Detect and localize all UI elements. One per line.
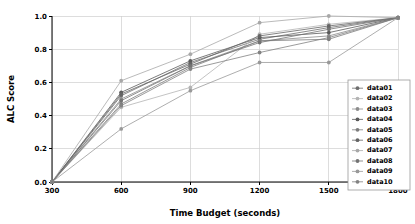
y-axis-title: ALC Score [6, 75, 16, 123]
legend-swatch-marker [356, 180, 360, 184]
series-marker [327, 24, 331, 28]
legend-swatch-marker [356, 138, 360, 142]
y-tick-label: 0.0 [35, 179, 48, 187]
series-marker [258, 61, 262, 65]
data-series [50, 16, 400, 184]
series-marker [258, 21, 262, 25]
x-tick-label: 300 [45, 187, 60, 195]
series-marker [327, 27, 331, 31]
legend-swatch-marker [356, 149, 360, 153]
y-tick-label: 0.6 [35, 79, 48, 87]
legend-item-label: data05 [367, 126, 393, 134]
legend-item-label: data08 [367, 157, 393, 165]
series-line [52, 18, 398, 182]
series-marker [119, 104, 123, 108]
legend-item-label: data10 [367, 178, 393, 186]
x-tick-label: 600 [114, 187, 129, 195]
series-marker [327, 31, 331, 35]
series-marker [396, 16, 400, 20]
data-series [50, 16, 400, 184]
x-tick-label: 900 [183, 187, 198, 195]
data-series [50, 14, 400, 184]
legend-swatch-marker [356, 159, 360, 163]
series-line [52, 18, 398, 182]
series-line [52, 18, 398, 182]
legend-swatch-marker [356, 118, 360, 122]
axis-lines [52, 16, 398, 182]
series-line [52, 18, 398, 182]
legend-swatch-marker [356, 107, 360, 111]
series-line [52, 18, 398, 182]
series-marker [327, 61, 331, 65]
legend-swatch-marker [356, 97, 360, 101]
x-axis-title: Time Budget (seconds) [170, 208, 281, 218]
legend-item-label: data02 [367, 94, 393, 102]
y-tick-label: 0.4 [35, 112, 48, 120]
series-marker [119, 79, 123, 83]
chart-legend[interactable]: data01data02data03data04data05data06data… [348, 80, 410, 190]
legend-swatch-marker [356, 128, 360, 132]
data-series [50, 16, 400, 184]
y-tick-label: 0.2 [35, 145, 48, 153]
series-marker [50, 180, 54, 184]
series-marker [189, 64, 193, 68]
series-marker [189, 59, 193, 63]
legend-item-label: data03 [367, 105, 393, 113]
series-marker [327, 36, 331, 40]
series-line [52, 18, 398, 182]
data-series [50, 16, 400, 184]
data-series [50, 16, 400, 184]
legend-item-label: data06 [367, 136, 393, 144]
series-line [52, 16, 398, 182]
data-series [50, 16, 400, 184]
x-tick-label: 1500 [319, 187, 339, 195]
data-series [50, 16, 400, 184]
y-tick-label: 1.0 [35, 13, 48, 21]
legend-swatch-marker [356, 170, 360, 174]
series-marker [258, 41, 262, 45]
series-marker [189, 52, 193, 56]
legend-swatch-marker [356, 86, 360, 90]
data-series [50, 16, 400, 184]
chart-figure: 0.00.20.40.60.81.0300600900120015001800 … [0, 0, 415, 224]
series-marker [258, 34, 262, 38]
legend-item-label: data09 [367, 167, 393, 175]
series-marker [327, 14, 331, 18]
legend-item-label: data04 [367, 115, 393, 123]
series-marker [119, 92, 123, 96]
series-line [52, 18, 398, 182]
series-line [52, 18, 398, 182]
series-marker [258, 51, 262, 55]
series-line [52, 18, 398, 182]
legend-item-label: data01 [367, 84, 393, 92]
series-marker [119, 127, 123, 131]
series-marker [189, 85, 193, 89]
series-marker [189, 67, 193, 71]
data-series-group [50, 14, 400, 184]
legend-item-label: data07 [367, 146, 393, 154]
line-chart: 0.00.20.40.60.81.0300600900120015001800 … [0, 0, 415, 224]
data-series [50, 16, 400, 184]
series-marker [189, 89, 193, 93]
grid-lines [52, 16, 398, 182]
axis-ticks [49, 16, 398, 185]
y-tick-label: 0.8 [35, 46, 48, 54]
x-tick-label: 1200 [250, 187, 270, 195]
series-marker [119, 99, 123, 103]
